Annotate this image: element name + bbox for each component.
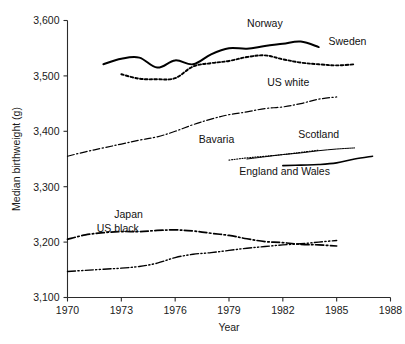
x-tick-label: 1970 bbox=[56, 304, 80, 316]
x-tick-label: 1973 bbox=[110, 304, 134, 316]
series-lines bbox=[68, 41, 373, 271]
x-tick-label: 1976 bbox=[163, 304, 187, 316]
y-axis-ticks: 3,1003,2003,3003,4003,5003,600 bbox=[33, 14, 67, 303]
series-label-england-and-wales: England and Wales bbox=[239, 165, 330, 177]
y-axis-title: Median birthweight (g) bbox=[10, 107, 22, 211]
y-tick-label: 3,600 bbox=[33, 14, 59, 26]
series-label-us-white: US white bbox=[267, 76, 309, 88]
series-label-sweden: Sweden bbox=[328, 35, 366, 47]
y-tick-label: 3,200 bbox=[33, 236, 59, 248]
y-tick-label: 3,400 bbox=[33, 125, 59, 137]
series-label-scotland: Scotland bbox=[298, 128, 339, 140]
x-axis-ticks: 1970197319761979198219851988 bbox=[56, 298, 403, 316]
series-label-us-black: US black bbox=[97, 222, 140, 234]
chart-container: 3,1003,2003,3003,4003,5003,600 197019731… bbox=[0, 0, 405, 344]
series-line-us-black bbox=[68, 240, 337, 271]
series-label-bavaria: Bavaria bbox=[199, 133, 235, 145]
series-line-us-white bbox=[68, 97, 337, 156]
series-label-japan: Japan bbox=[114, 208, 143, 220]
series-line-bavaria bbox=[229, 150, 319, 160]
x-tick-label: 1979 bbox=[217, 304, 241, 316]
birthweight-line-chart: 3,1003,2003,3003,4003,5003,600 197019731… bbox=[0, 0, 405, 344]
x-tick-label: 1985 bbox=[325, 304, 349, 316]
series-labels: NorwaySwedenUS whiteBavariaScotlandEngla… bbox=[97, 17, 367, 234]
axes bbox=[68, 21, 391, 298]
y-tick-label: 3,500 bbox=[33, 70, 59, 82]
y-tick-label: 3,300 bbox=[33, 181, 59, 193]
series-label-norway: Norway bbox=[247, 17, 283, 29]
series-line-scotland bbox=[247, 148, 355, 159]
y-tick-label: 3,100 bbox=[33, 291, 59, 303]
x-axis-title: Year bbox=[218, 321, 240, 333]
x-tick-label: 1982 bbox=[271, 304, 295, 316]
x-tick-label: 1988 bbox=[379, 304, 403, 316]
